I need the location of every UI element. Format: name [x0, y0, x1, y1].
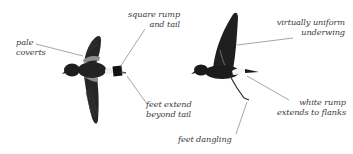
- label-line: pale: [16, 37, 46, 47]
- label-line: virtually uniform: [264, 17, 345, 27]
- label-line: coverts: [16, 47, 46, 57]
- leader-feet-extend: [127, 76, 147, 104]
- label-square-rump-and-tail: square rump and tail: [128, 9, 180, 29]
- left-bird-illustration: [62, 36, 126, 124]
- label-feet-extend-beyond-tail: feet extend beyond tail: [146, 99, 192, 119]
- figure-canvas: pale coverts square rump and tail feet e…: [0, 0, 353, 154]
- label-line: feet dangling: [178, 134, 232, 144]
- label-line: beyond tail: [146, 109, 192, 119]
- right-bird-illustration: [191, 13, 259, 100]
- leader-underwing: [237, 38, 293, 45]
- leader-square-rump: [120, 29, 145, 67]
- label-feet-dangling: feet dangling: [178, 134, 232, 144]
- leader-feet-dangling: [236, 102, 247, 134]
- label-line: underwing: [264, 27, 345, 37]
- label-pale-coverts: pale coverts: [16, 37, 46, 57]
- label-line: extends to flanks: [268, 107, 346, 117]
- label-line: feet extend: [146, 99, 192, 109]
- label-virtually-uniform-underwing: virtually uniform underwing: [264, 17, 345, 37]
- label-line: and tail: [128, 19, 180, 29]
- label-white-rump-extends-to-flanks: white rump extends to flanks: [268, 97, 346, 117]
- label-line: white rump: [268, 97, 346, 107]
- label-line: square rump: [128, 9, 180, 19]
